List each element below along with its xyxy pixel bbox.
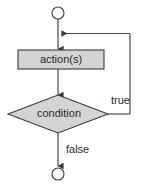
edge-label-false: false xyxy=(66,143,89,155)
flowchart-diagram: action(s) condition true false xyxy=(0,0,142,185)
action-node-label: action(s) xyxy=(40,53,82,65)
end-node-circle xyxy=(52,168,64,180)
start-node-circle xyxy=(52,7,64,19)
flowchart-canvas: action(s) condition true false xyxy=(0,0,142,185)
condition-node-label: condition xyxy=(37,107,81,119)
edge-label-true: true xyxy=(111,94,130,106)
